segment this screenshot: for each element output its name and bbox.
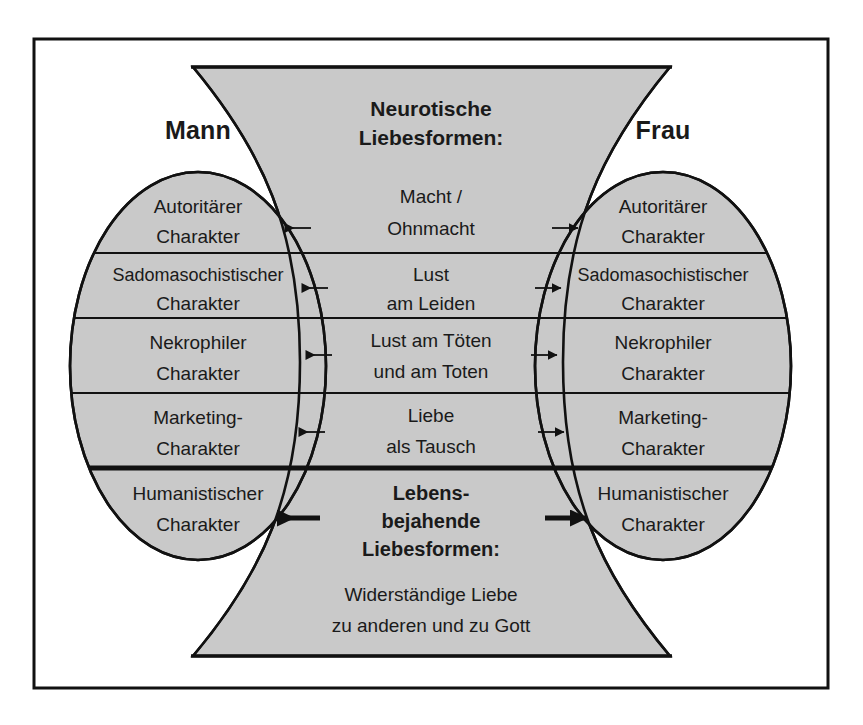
left-row-0-line1: Autoritärer <box>154 196 243 217</box>
diagram-canvas: Mann Frau Neurotische Liebesformen: Mach… <box>0 0 863 725</box>
center-heading-line1: Neurotische <box>370 97 491 120</box>
left-row-0-line2: Charakter <box>156 226 240 247</box>
center-row-3-line1: Liebe <box>408 405 455 426</box>
center-row-3-line2: als Tausch <box>386 436 475 457</box>
right-row-0-line2: Charakter <box>621 226 705 247</box>
center-bottom-heading-line2: bejahende <box>382 510 481 532</box>
center-row-0-line2: Ohnmacht <box>387 218 475 239</box>
center-bottom-heading-line3: Liebesformen: <box>362 538 500 560</box>
right-row-4-line1: Humanistischer <box>598 483 730 504</box>
left-row-2-line1: Nekrophiler <box>149 332 247 353</box>
center-row-1-line2: am Leiden <box>387 293 476 314</box>
center-row-2-line1: Lust am Töten <box>370 330 491 351</box>
left-row-4-line1: Humanistischer <box>133 483 265 504</box>
left-row-4-line2: Charakter <box>156 514 240 535</box>
center-row-1-line1: Lust <box>413 264 450 285</box>
left-row-3-line2: Charakter <box>156 438 240 459</box>
left-row-1-line2: Charakter <box>156 293 240 314</box>
left-row-3-line1: Marketing- <box>153 407 243 428</box>
right-row-3-line1: Marketing- <box>618 407 708 428</box>
right-row-2-line1: Nekrophiler <box>614 332 712 353</box>
right-row-4-line2: Charakter <box>621 514 705 535</box>
right-row-1-line1: Sadomasochistischer <box>577 265 748 285</box>
center-row-0-line1: Macht / <box>400 186 463 207</box>
center-bottom-heading-line1: Lebens- <box>393 482 470 504</box>
right-row-3-line2: Charakter <box>621 438 705 459</box>
page-title-mann: Mann <box>165 116 231 144</box>
center-heading-line2: Liebesformen: <box>359 126 504 149</box>
right-row-0-line1: Autoritärer <box>619 196 708 217</box>
love-forms-diagram: Mann Frau Neurotische Liebesformen: Mach… <box>0 0 863 725</box>
center-bottom-row-0-line2: zu anderen und zu Gott <box>332 615 531 636</box>
right-row-2-line2: Charakter <box>621 363 705 384</box>
left-row-1-line1: Sadomasochistischer <box>112 265 283 285</box>
center-bottom-row-0-line1: Widerständige Liebe <box>344 584 517 605</box>
center-row-2-line2: und am Toten <box>374 361 489 382</box>
right-row-1-line2: Charakter <box>621 293 705 314</box>
left-row-2-line2: Charakter <box>156 363 240 384</box>
page-title-frau: Frau <box>636 116 691 144</box>
